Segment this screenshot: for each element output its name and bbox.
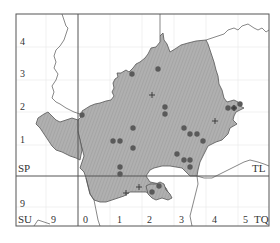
record-dot xyxy=(187,131,192,136)
record-dot xyxy=(181,125,186,130)
x-tick-label: 2 xyxy=(147,214,152,225)
x-tick-label: 1 xyxy=(117,214,122,225)
record-dot xyxy=(117,171,122,176)
record-dot xyxy=(194,131,199,136)
x-tick-label: 0 xyxy=(83,214,88,225)
record-dot xyxy=(187,157,192,162)
record-dot xyxy=(117,164,122,169)
record-dot xyxy=(117,138,122,143)
record-dot xyxy=(200,138,205,143)
y-tick-label: 1 xyxy=(20,134,25,145)
x-tick-label: 4 xyxy=(212,214,217,225)
record-dot xyxy=(155,66,160,71)
grid-square-label: SP xyxy=(18,162,30,174)
x-tick-label: 9 xyxy=(51,214,56,225)
y-tick-label: 4 xyxy=(20,36,25,47)
record-dot xyxy=(162,111,167,116)
record-dot xyxy=(149,189,154,194)
record-dot xyxy=(130,145,135,150)
y-tick-label: 3 xyxy=(20,68,25,79)
record-dot xyxy=(156,183,161,188)
y-tick-label: 9 xyxy=(20,198,25,209)
record-dot xyxy=(225,105,230,110)
county-region xyxy=(76,33,244,202)
distribution-map: SPTLSUTQ432199012345 xyxy=(0,0,280,243)
record-dot xyxy=(237,101,242,106)
y-tick-label: 2 xyxy=(20,101,25,112)
record-dot xyxy=(174,151,179,156)
county-west-lobe xyxy=(36,112,82,160)
record-dot xyxy=(79,112,84,117)
record-dot xyxy=(187,164,192,169)
record-dot xyxy=(162,104,167,109)
x-tick-label: 3 xyxy=(179,214,184,225)
grid-square-label: SU xyxy=(18,213,32,225)
record-dot xyxy=(129,71,134,76)
record-dot xyxy=(130,125,135,130)
x-tick-label: 5 xyxy=(243,214,248,225)
record-dot xyxy=(181,157,186,162)
grid-square-label: TL xyxy=(252,162,266,174)
grid-square-label: TQ xyxy=(254,213,269,225)
record-dot xyxy=(110,138,115,143)
